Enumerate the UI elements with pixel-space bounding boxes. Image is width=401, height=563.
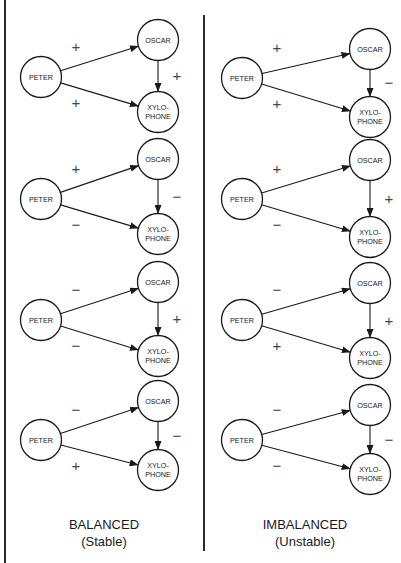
balanced-title: BALANCED — [34, 516, 174, 533]
oscar-node: OSCAR — [350, 385, 391, 426]
peter-xylophone-sign: − — [72, 216, 81, 233]
balanced-triad-2: PETEROSCARXYLO-PHONE+−− — [21, 139, 182, 255]
oscar-node: OSCAR — [138, 20, 179, 61]
peter-xylophone-sign: − — [273, 457, 282, 474]
xylophone-node-label: XYLO- — [147, 461, 169, 470]
imbalanced-triad-1: PETEROSCARXYLO-PHONE+−+ — [222, 29, 394, 138]
peter-oscar-sign: − — [273, 281, 282, 298]
xylophone-node-label: XYLO- — [359, 228, 381, 237]
peter-node-label: PETER — [230, 436, 254, 445]
peter-oscar-sign: + — [72, 160, 81, 177]
peter-node: PETER — [222, 300, 263, 341]
xylophone-node-label: PHONE — [357, 237, 383, 246]
peter-node-label: PETER — [230, 74, 254, 83]
oscar-node-label: OSCAR — [357, 279, 383, 288]
peter-node-label: PETER — [29, 73, 53, 82]
balanced-triad-1: PETEROSCARXYLO-PHONE+++ — [21, 20, 182, 133]
peter-node-label: PETER — [230, 195, 254, 204]
xylophone-node-label: XYLO- — [147, 103, 169, 112]
oscar-node: OSCAR — [138, 381, 179, 422]
xylophone-node-label: PHONE — [357, 358, 383, 367]
oscar-node-label: OSCAR — [145, 278, 171, 287]
imbalanced-caption: IMBALANCED (Unstable) — [235, 516, 375, 550]
peter-node: PETER — [21, 300, 62, 341]
oscar-node: OSCAR — [350, 140, 391, 181]
xylophone-node-label: XYLO- — [147, 225, 169, 234]
peter-xylophone-sign: + — [273, 337, 282, 354]
xylophone-node: XYLO-PHONE — [138, 92, 179, 133]
imbalanced-title: IMBALANCED — [235, 516, 375, 533]
xylophone-node: XYLO-PHONE — [138, 214, 179, 255]
peter-oscar-sign: + — [273, 39, 282, 56]
xylophone-node-label: PHONE — [357, 474, 383, 483]
balanced-caption: BALANCED (Stable) — [34, 516, 174, 550]
imbalanced-subtitle: (Unstable) — [235, 533, 375, 550]
peter-to-oscar-arrow — [262, 54, 350, 74]
oscar-node-label: OSCAR — [145, 36, 171, 45]
xylophone-node-label: PHONE — [145, 356, 171, 365]
peter-oscar-sign: + — [273, 160, 282, 177]
oscar-xylophone-sign: − — [173, 427, 182, 444]
oscar-xylophone-sign: + — [385, 312, 394, 329]
balanced-subtitle: (Stable) — [34, 533, 174, 550]
peter-node: PETER — [21, 57, 62, 98]
peter-node: PETER — [21, 420, 62, 461]
peter-node: PETER — [222, 420, 263, 461]
xylophone-node: XYLO-PHONE — [350, 217, 391, 258]
oscar-xylophone-sign: + — [173, 67, 182, 84]
peter-node: PETER — [21, 179, 62, 220]
oscar-xylophone-sign: + — [385, 190, 394, 207]
oscar-node-label: OSCAR — [145, 155, 171, 164]
balanced-triad-3: PETEROSCARXYLO-PHONE−+− — [21, 262, 182, 377]
oscar-node: OSCAR — [350, 263, 391, 304]
oscar-node-label: OSCAR — [145, 397, 171, 406]
oscar-node-label: OSCAR — [357, 401, 383, 410]
xylophone-node: XYLO-PHONE — [350, 338, 391, 379]
peter-oscar-sign: + — [72, 38, 81, 55]
oscar-node: OSCAR — [350, 29, 391, 70]
oscar-xylophone-sign: − — [173, 188, 182, 205]
peter-oscar-sign: − — [273, 401, 282, 418]
balance-theory-diagram: PETEROSCARXYLO-PHONE+++PETEROSCARXYLO-PH… — [0, 0, 401, 563]
peter-xylophone-sign: + — [273, 95, 282, 112]
oscar-xylophone-sign: − — [385, 74, 394, 91]
xylophone-node: XYLO-PHONE — [138, 336, 179, 377]
peter-oscar-sign: − — [72, 401, 81, 418]
xylophone-node: XYLO-PHONE — [138, 450, 179, 491]
peter-node-label: PETER — [230, 316, 254, 325]
xylophone-node-label: XYLO- — [359, 349, 381, 358]
oscar-node: OSCAR — [138, 139, 179, 180]
xylophone-node: XYLO-PHONE — [350, 97, 391, 138]
imbalanced-triad-4: PETEROSCARXYLO-PHONE−−− — [222, 385, 394, 495]
peter-node-label: PETER — [29, 436, 53, 445]
oscar-node-label: OSCAR — [357, 156, 383, 165]
xylophone-node-label: PHONE — [357, 117, 383, 126]
oscar-xylophone-sign: + — [173, 310, 182, 327]
balanced-triad-4: PETEROSCARXYLO-PHONE−−+ — [21, 381, 182, 491]
peter-xylophone-sign: − — [273, 216, 282, 233]
peter-xylophone-sign: − — [72, 337, 81, 354]
xylophone-node-label: PHONE — [145, 234, 171, 243]
oscar-node: OSCAR — [138, 262, 179, 303]
xylophone-node-label: XYLO- — [147, 347, 169, 356]
xylophone-node: XYLO-PHONE — [350, 454, 391, 495]
peter-node-label: PETER — [29, 195, 53, 204]
peter-node: PETER — [222, 179, 263, 220]
peter-node-label: PETER — [29, 316, 53, 325]
oscar-node-label: OSCAR — [357, 45, 383, 54]
oscar-xylophone-sign: − — [385, 431, 394, 448]
xylophone-node-label: PHONE — [145, 470, 171, 479]
peter-xylophone-sign: + — [72, 94, 81, 111]
imbalanced-triad-3: PETEROSCARXYLO-PHONE−++ — [222, 263, 394, 379]
imbalanced-triad-2: PETEROSCARXYLO-PHONE++− — [222, 140, 394, 258]
xylophone-node-label: XYLO- — [359, 465, 381, 474]
peter-xylophone-sign: + — [72, 457, 81, 474]
xylophone-node-label: XYLO- — [359, 108, 381, 117]
xylophone-node-label: PHONE — [145, 112, 171, 121]
peter-oscar-sign: − — [72, 281, 81, 298]
triads-layer: PETEROSCARXYLO-PHONE+++PETEROSCARXYLO-PH… — [21, 20, 394, 495]
peter-node: PETER — [222, 58, 263, 99]
